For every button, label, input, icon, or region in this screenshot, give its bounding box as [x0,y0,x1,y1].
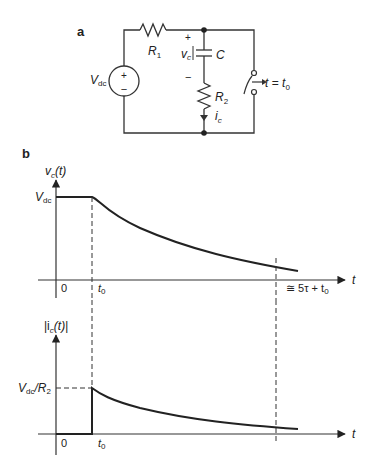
cap-minus: − [185,71,191,83]
tick-5tau: ≅ 5τ + t0 [286,282,329,296]
ic-curve [56,388,298,434]
tick-zero-2: 0 [61,437,67,449]
source-plus: + [121,70,127,81]
r1-label: R1 [148,44,162,60]
vc-plot: vc(t) Vdc t 0 t0 ≅ 5τ + t0 [35,164,356,300]
tick-t0-2: t0 [98,437,106,451]
vc-x-label: t [352,273,356,287]
current-arrow-icon [200,115,208,121]
switch-label: t = t0 [265,76,290,92]
capacitor-label: C [216,48,225,62]
figure: a + − Vdc [0,0,376,470]
vdc-level-label: Vdc [35,190,51,205]
r2-label: R2 [215,90,229,106]
r2-resistor [198,83,210,109]
panel-b-label: b [22,146,30,161]
ic-plot: |ic(t)| Vdc/R2 t 0 t0 [18,319,356,455]
vdc-r2-level-label: Vdc/R2 [18,381,51,396]
tick-zero: 0 [61,282,67,294]
ic-y-label: |ic(t)| [44,319,68,335]
source-label: Vdc [90,73,106,88]
tick-t0: t0 [98,282,106,296]
vc-y-label: vc(t) [45,164,66,180]
cap-plus: + [185,32,191,43]
switch-icon [244,71,267,95]
bottom-node [201,130,207,136]
circuit-diagram: a + − Vdc [77,24,290,136]
r1-resistor [140,24,166,36]
vc-label: vc [181,47,191,62]
ic-label: ic [215,109,222,125]
source-minus: − [121,83,127,95]
ic-x-label: t [352,427,356,441]
top-node [201,27,207,33]
panel-a-label: a [77,24,85,39]
